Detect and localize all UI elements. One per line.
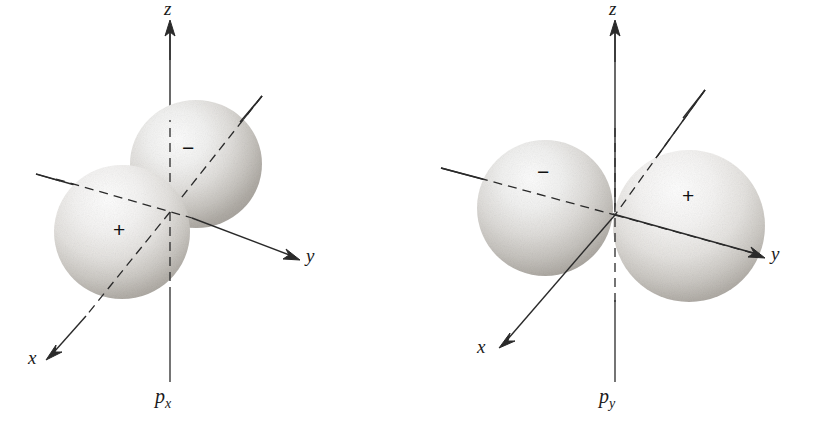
px-axis-label-y: y — [306, 245, 314, 267]
py-caption-subscript: y — [609, 396, 615, 411]
px-axis-x-stem — [54, 316, 86, 352]
py-caption-base: p — [599, 385, 609, 407]
px-axis-x-tail — [240, 96, 262, 122]
px-axis-x-arrowhead — [46, 345, 62, 360]
px-diagram-svg — [0, 0, 417, 428]
px-lobe-sign-negative: − — [182, 137, 194, 158]
orbital-panel-px: z y x + − px — [0, 0, 417, 428]
py-axis-y-tail — [441, 168, 479, 178]
py-caption: py — [599, 385, 615, 412]
p-orbitals-figure: z y x + − px — [0, 0, 834, 428]
px-axis-y-tail — [36, 174, 60, 181]
orbital-panel-py: z y x − + py — [417, 0, 834, 428]
py-diagram-svg — [417, 0, 834, 428]
px-caption-base: p — [155, 385, 165, 407]
py-lobe-positive — [613, 150, 765, 302]
py-axis-label-z: z — [609, 0, 616, 20]
px-axis-label-z: z — [164, 0, 171, 20]
px-lobe-sign-positive: + — [113, 219, 125, 240]
px-caption-subscript: x — [165, 396, 171, 411]
px-axis-y-arrowhead — [283, 249, 300, 260]
py-axis-x-arrowhead — [499, 333, 515, 348]
py-lobe-sign-negative: − — [537, 161, 549, 182]
px-caption: px — [155, 385, 171, 412]
py-axis-label-x: x — [477, 336, 485, 358]
py-axis-x-tail — [683, 90, 705, 118]
px-axis-label-x: x — [28, 347, 36, 369]
px-axis-y-stem — [192, 218, 292, 256]
py-axis-label-y: y — [771, 243, 779, 265]
py-lobe-sign-positive: + — [682, 185, 694, 206]
